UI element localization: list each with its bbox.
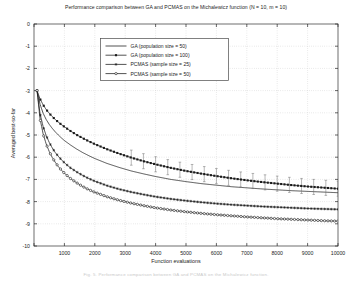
- svg-text:7000: 7000: [241, 250, 253, 256]
- page-artifact: Fig. 5. Performance comparison between G…: [0, 272, 352, 282]
- svg-text:0: 0: [27, 21, 30, 27]
- svg-text:-3: -3: [25, 88, 30, 94]
- svg-text:-4: -4: [25, 110, 30, 116]
- series-1: [36, 90, 339, 197]
- series-markers: [36, 89, 339, 222]
- svg-text:3000: 3000: [119, 250, 131, 256]
- series-0: [37, 91, 338, 193]
- svg-text:9000: 9000: [302, 250, 314, 256]
- figure-container: Performance comparison between GA and PC…: [0, 0, 352, 284]
- series-markers: [36, 89, 339, 210]
- svg-text:-2: -2: [25, 65, 30, 71]
- svg-text:2000: 2000: [89, 250, 101, 256]
- x-axis-label: Function evaluations: [0, 258, 352, 264]
- svg-text:-5: -5: [25, 132, 30, 138]
- artifact-caption: Fig. 5. Performance comparison between G…: [0, 272, 352, 277]
- svg-text:8000: 8000: [271, 250, 283, 256]
- svg-text:-7: -7: [25, 176, 30, 182]
- legend[interactable]: GA (population size = 50)GA (population …: [101, 39, 229, 81]
- svg-text:4000: 4000: [150, 250, 162, 256]
- svg-text:-10: -10: [23, 243, 31, 249]
- svg-text:10000: 10000: [331, 250, 346, 256]
- series-3: [36, 89, 339, 222]
- svg-text:1000: 1000: [59, 250, 71, 256]
- legend-label-2: PCMAS (sample size = 25): [131, 61, 191, 67]
- legend-label-3: PCMAS (sample size = 50): [131, 71, 191, 77]
- legend-label-1: GA (population size = 100): [131, 52, 190, 58]
- series-2: [36, 89, 339, 210]
- svg-text:-6: -6: [25, 154, 30, 160]
- series-group: [36, 89, 339, 222]
- svg-text:6000: 6000: [211, 250, 223, 256]
- y-axis-label: Averaged best-so-far: [10, 83, 16, 183]
- svg-text:5000: 5000: [180, 250, 192, 256]
- chart-canvas: 1000200030004000500060007000800090001000…: [0, 0, 352, 284]
- svg-text:-1: -1: [25, 43, 30, 49]
- svg-text:-9: -9: [25, 221, 30, 227]
- legend-label-0: GA (population size = 50): [131, 43, 188, 49]
- svg-text:-8: -8: [25, 199, 30, 205]
